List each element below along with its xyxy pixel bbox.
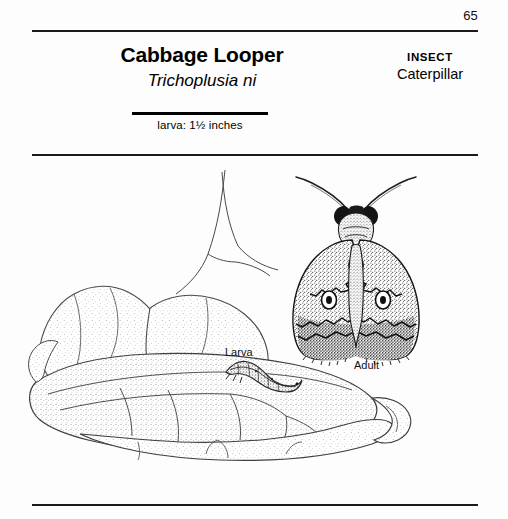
category-block: INSECT Caterpillar [380, 50, 480, 83]
header-rule-bottom [32, 154, 478, 156]
title-block: Cabbage Looper Trichoplusia ni [32, 42, 372, 92]
figure-label-larva: Larva [225, 345, 253, 359]
category-name: Caterpillar [380, 65, 480, 83]
scale-label: larva: 1½ inches [132, 118, 268, 133]
scale-bar [132, 112, 268, 115]
scientific-name: Trichoplusia ni [32, 70, 372, 92]
field-guide-page: 65 Cabbage Looper Trichoplusia ni INSECT… [0, 0, 508, 519]
header-rule-top [32, 30, 478, 32]
adult-moth-illustration [293, 177, 419, 366]
category-kicker: INSECT [380, 50, 480, 64]
figure-label-adult: Adult [354, 358, 379, 372]
footer-rule [32, 504, 478, 506]
scale-block: larva: 1½ inches [132, 112, 268, 133]
illustration-plate [0, 158, 508, 498]
page-title: Cabbage Looper [32, 42, 372, 67]
page-number: 65 [463, 8, 478, 24]
